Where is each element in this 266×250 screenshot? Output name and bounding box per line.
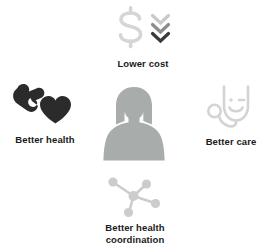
node-label-better-health: Better health: [15, 134, 74, 146]
network-node-2: [142, 179, 151, 188]
node-label-coordination: Better health coordination: [105, 222, 164, 246]
hand-holding-heart-icon: [9, 82, 81, 130]
node-label-better-care: Better care: [206, 136, 257, 148]
network-node-1: [108, 177, 117, 186]
network-nodes-icon: [106, 176, 164, 218]
node-better-health-coordination[interactable]: Better health coordination: [96, 176, 174, 246]
person-silhouette-icon: [98, 86, 170, 162]
node-lower-cost[interactable]: Lower cost: [98, 6, 188, 70]
infographic-canvas: Lower cost Better health: [0, 0, 266, 250]
stethoscope-smiley-icon: [200, 84, 262, 132]
node-better-health[interactable]: Better health: [0, 82, 90, 146]
node-better-care[interactable]: Better care: [196, 84, 266, 148]
network-node-center: [129, 191, 139, 201]
node-center-patient[interactable]: [98, 86, 170, 166]
network-node-3: [151, 199, 160, 208]
eye-left: [229, 98, 232, 101]
node-label-lower-cost: Lower cost: [117, 58, 168, 70]
network-node-4: [124, 208, 133, 217]
dollar-sign-down-arrows-icon: [108, 6, 178, 54]
